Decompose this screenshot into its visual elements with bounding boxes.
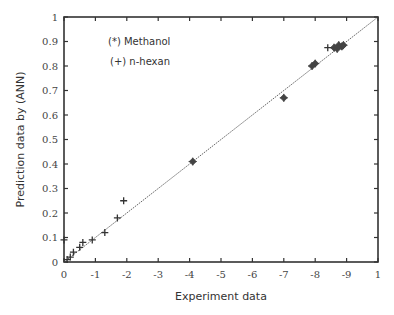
y-axis-title: Prediction data by (ANN) (14, 72, 27, 208)
x-tick-label: 0 (61, 269, 67, 280)
y-tick-label: 0.4 (42, 159, 58, 170)
y-tick-label: 1 (52, 12, 58, 23)
y-tick-label: 0.1 (42, 232, 58, 243)
methanol-point-cross (280, 94, 288, 102)
y-tick-label: 0.5 (42, 134, 58, 145)
n-hexan-point (324, 44, 331, 51)
y-tick-label: 0.9 (42, 36, 58, 47)
n-hexan-point (76, 244, 83, 251)
n-hexan-point (114, 214, 121, 221)
legend-n-hexan: (+) n-hexan (110, 56, 170, 67)
y-tick-label: 0.7 (42, 85, 58, 96)
methanol-point-cross (189, 158, 197, 166)
y-tick-label: 0.6 (42, 110, 58, 121)
y-tick-label: 0 (52, 257, 58, 268)
y-tick-label: 0.8 (42, 61, 58, 72)
reference-line (64, 17, 378, 262)
x-tick-label: -7 (279, 269, 289, 280)
x-tick-label: -8 (310, 269, 320, 280)
scatter-chart: 0-1-2-3-4-5-6-7-8-9100.10.20.30.40.50.60… (0, 0, 394, 315)
x-tick-label: -1 (91, 269, 101, 280)
y-tick-label: 0.2 (42, 208, 58, 219)
x-tick-label: -3 (153, 269, 163, 280)
n-hexan-point (120, 197, 127, 204)
n-hexan-point (79, 239, 86, 246)
x-tick-label: -5 (216, 269, 226, 280)
x-tick-label: -2 (122, 269, 132, 280)
x-axis-title: Experiment data (175, 290, 267, 303)
legend-methanol: (*) Methanol (108, 36, 170, 47)
n-hexan-point (101, 229, 108, 236)
n-hexan-point (89, 236, 96, 243)
x-tick-label: -9 (342, 269, 352, 280)
x-tick-label: 1 (375, 269, 381, 280)
x-tick-label: -6 (248, 269, 258, 280)
y-tick-label: 0.3 (42, 183, 58, 194)
n-hexan-point (70, 249, 77, 256)
x-tick-label: -4 (185, 269, 195, 280)
